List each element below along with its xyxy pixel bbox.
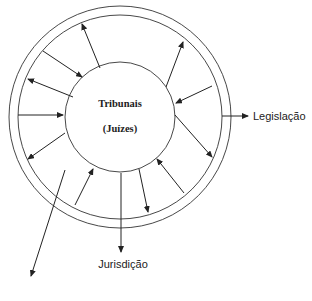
arrow-outward-3 bbox=[28, 79, 73, 97]
core-circle bbox=[65, 62, 175, 172]
center-title: Tribunais bbox=[98, 98, 142, 109]
arrow-inward-2 bbox=[43, 51, 82, 77]
inner-ring-circle bbox=[18, 15, 222, 219]
arrow-outward-5 bbox=[28, 133, 65, 159]
arrow-inward-11 bbox=[176, 86, 212, 103]
center-subtitle: (Juízes) bbox=[103, 123, 138, 135]
tribunais-diagram: Tribunais (Juízes) Legislação Jurisdição bbox=[0, 0, 312, 301]
outer-ring-circle bbox=[9, 6, 231, 228]
concentric-circles bbox=[9, 6, 231, 228]
arrow-outward-8 bbox=[139, 169, 148, 212]
arrow-outward-10 bbox=[175, 115, 212, 157]
arrow-inward-6 bbox=[75, 169, 93, 205]
arrow-outward-1 bbox=[82, 24, 100, 68]
arrow-long-outward bbox=[31, 170, 65, 276]
label-legislacao: Legislação bbox=[253, 110, 306, 122]
arrow-inward-9 bbox=[157, 159, 184, 193]
label-jurisdicao: Jurisdição bbox=[98, 258, 148, 270]
arrows-group bbox=[18, 24, 248, 276]
arrow-outward-12 bbox=[166, 42, 183, 87]
